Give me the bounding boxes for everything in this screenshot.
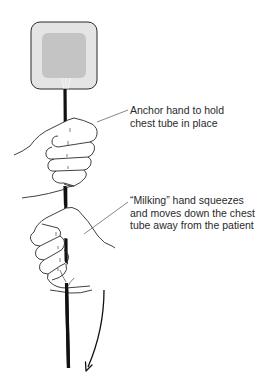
leader-line-anchor: [97, 110, 128, 122]
leader-line-milking: [84, 202, 128, 234]
milking-hand-icon: [30, 207, 115, 293]
label-line: chest tube in place: [130, 117, 224, 130]
label-milking-hand: “Milking” hand squeezes and moves down t…: [130, 194, 255, 232]
down-arrow-curved-icon: [86, 290, 105, 371]
label-line: Anchor hand to hold: [130, 104, 224, 117]
label-anchor-hand: Anchor hand to hold chest tube in place: [130, 104, 224, 129]
dressing-pad-icon: [31, 22, 97, 89]
label-line: “Milking” hand squeezes: [130, 194, 255, 207]
anchor-hand-icon: [14, 118, 97, 198]
illustration: [0, 0, 263, 381]
label-line: and moves down the chest: [130, 207, 255, 220]
label-line: tube away from the patient: [130, 219, 255, 232]
